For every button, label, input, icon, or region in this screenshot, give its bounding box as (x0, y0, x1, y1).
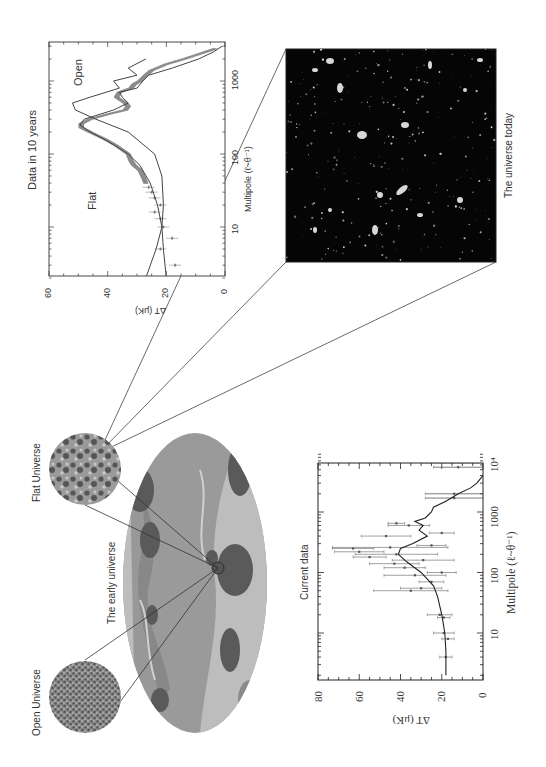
flat-universe-circle (49, 433, 121, 505)
bottom-y-tick-80: 80 (312, 691, 324, 702)
bottom-x-tick-1000: 1000 (488, 506, 500, 528)
bottom-y-axis-label: ΔT (μK) (392, 715, 430, 727)
open-annotation: Open (72, 59, 84, 86)
bottom-y-tick-20: 20 (435, 691, 447, 702)
bottom-y-tick-40: 40 (394, 691, 406, 702)
bottom-chart-title: Current data (299, 544, 310, 600)
open-universe-label: Open Universe (31, 669, 42, 736)
early-universe-sky-map (110, 433, 275, 733)
universe-today-label: The universe today (503, 113, 514, 198)
bottom-x-tick-10: 10 (488, 629, 500, 640)
top-y-tick-40: 40 (102, 288, 112, 298)
bottom-y-tick-60: 60 (353, 691, 365, 702)
early-universe-label: The early universe (106, 542, 117, 624)
chart-current-data (318, 453, 483, 680)
top-y-tick-20: 20 (160, 288, 170, 298)
bottom-y-tick-0: 0 (476, 693, 488, 699)
top-chart-title: Data in 10 years (26, 110, 38, 190)
top-y-tick-0: 0 (219, 289, 229, 294)
open-universe-circle (49, 661, 121, 733)
top-y-tick-60: 60 (43, 288, 53, 298)
top-x-tick-1000: 1000 (230, 70, 240, 90)
bottom-x-tick-100: 100 (488, 568, 500, 585)
top-x-tick-10: 10 (230, 224, 240, 234)
hubble-deep-field-photo (285, 49, 496, 262)
bottom-x-tick-10000: 10⁴ (488, 457, 500, 472)
top-x-axis-label: Multipole (ℓ~θ⁻¹) (243, 146, 253, 212)
top-x-tick-100: 100 (230, 150, 240, 165)
cmb-figure (0, 0, 546, 767)
top-y-axis-label: ΔT (μK) (135, 306, 166, 316)
flat-universe-label: Flat Universe (31, 443, 42, 502)
bottom-x-axis-label: Multipole (ℓ~θ⁻¹) (504, 531, 518, 614)
flat-annotation: Flat (86, 192, 98, 210)
